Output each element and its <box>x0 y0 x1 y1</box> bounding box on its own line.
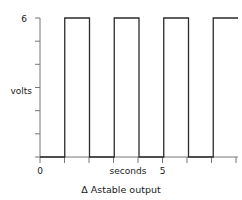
x-tick-label-0: 0 <box>37 166 43 176</box>
x-axis-ticks <box>40 157 236 163</box>
y-axis-label: volts <box>10 86 32 96</box>
x-axis-label: seconds <box>110 166 147 176</box>
x-tick-label-5: 5 <box>160 166 166 176</box>
chart-figure: 6 volts 0 5 seconds Δ Astable output <box>0 0 242 200</box>
astable-output-waveform-chart: 6 volts 0 5 seconds Δ Astable output <box>0 0 242 200</box>
y-axis-ticks <box>35 18 40 157</box>
y-tick-label-6: 6 <box>21 14 27 24</box>
waveform-trace <box>40 18 238 157</box>
figure-caption: Δ Astable output <box>81 184 161 195</box>
